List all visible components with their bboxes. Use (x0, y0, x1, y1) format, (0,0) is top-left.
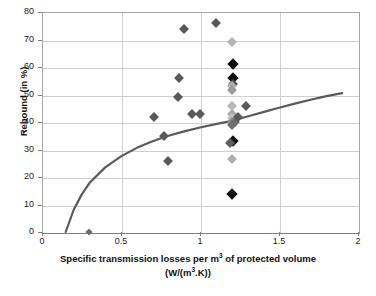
y-tick-mark (38, 205, 42, 206)
y-tick-mark (38, 40, 42, 41)
y-tick-label: 10 (0, 199, 34, 209)
x-tick-label: 0 (39, 236, 44, 246)
y-tick-mark (38, 95, 42, 96)
y-tick-mark (38, 150, 42, 151)
scatter-chart: Rebound (in %) Specific transmission los… (0, 0, 376, 296)
x-gridline (280, 13, 281, 233)
x-tick-label: 0.5 (115, 236, 128, 246)
y-tick-mark (38, 67, 42, 68)
y-tick-label: 40 (0, 116, 34, 126)
x-axis-title-part3: (W/(m (165, 267, 191, 278)
y-tick-label: 60 (0, 61, 34, 71)
plot-area (42, 12, 360, 234)
y-tick-label: 0 (0, 226, 34, 236)
x-tick-label: 1 (197, 236, 202, 246)
x-axis-title-part2: of protected volume (223, 253, 316, 264)
x-axis-title-part1: Specific transmission losses per m (60, 253, 219, 264)
x-axis-title-part4: .K)) (195, 267, 211, 278)
y-tick-label: 70 (0, 34, 34, 44)
y-tick-mark (38, 177, 42, 178)
x-tick-label: 1.5 (273, 236, 286, 246)
x-gridline (201, 13, 202, 233)
y-tick-mark (38, 12, 42, 13)
x-gridline (122, 13, 123, 233)
y-tick-label: 20 (0, 171, 34, 181)
y-tick-label: 30 (0, 144, 34, 154)
y-tick-label: 80 (0, 6, 34, 16)
y-tick-mark (38, 122, 42, 123)
x-tick-label: 2 (355, 236, 360, 246)
y-tick-label: 50 (0, 89, 34, 99)
x-axis-title: Specific transmission losses per m3 of p… (10, 252, 366, 280)
